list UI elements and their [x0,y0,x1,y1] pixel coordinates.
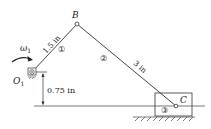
label-c: C [180,95,187,105]
joint-b [75,22,79,26]
link-number-1: ① [58,45,65,54]
offset-dimension [36,72,47,106]
omega-label: ω1 [20,43,31,54]
omega-arrowhead-icon [28,56,34,62]
label-b: B [71,10,79,20]
link-number-3: ③ [161,106,168,115]
label-o1: O1 [13,76,24,87]
joint-c [174,104,178,108]
link-2 [77,24,176,106]
length-label-link-2: 3 in [132,59,149,75]
link-number-2: ② [100,54,107,63]
link-1 [32,24,77,72]
offset-label: 0.75 in [47,86,75,95]
ground-hatch [133,117,195,121]
pivot-o1 [28,68,36,79]
slider-crank-diagram: 0.75 in ω1 B O1 C 1.5 in 3 in ① ② ③ [0,0,211,129]
